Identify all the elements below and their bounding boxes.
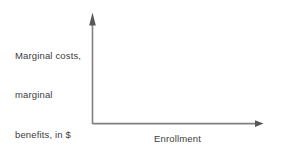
y-axis-arrow-icon bbox=[89, 13, 96, 26]
y-axis-label: Marginal costs, marginal benefits, in $ bbox=[15, 22, 81, 156]
chart-figure: Marginal costs, marginal benefits, in $ … bbox=[0, 0, 291, 156]
x-axis-arrow-icon bbox=[255, 120, 264, 127]
y-axis-label-line-2: marginal bbox=[15, 88, 81, 101]
y-axis-label-line-1: Marginal costs, bbox=[15, 49, 81, 62]
y-axis-label-line-3: benefits, in $ bbox=[15, 128, 81, 141]
x-axis-label: Enrollment bbox=[92, 132, 263, 145]
